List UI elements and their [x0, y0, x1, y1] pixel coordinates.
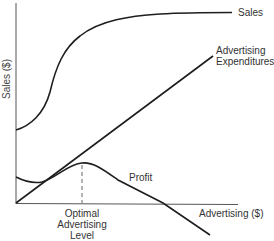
advertising-expenditures-label-line2: Expenditures — [216, 56, 274, 67]
optimal-label-line2: Advertising — [52, 219, 112, 230]
profit-curve — [16, 163, 210, 235]
profit-label: Profit — [129, 172, 152, 183]
advertising-expenditures-label: Advertising Expenditures — [216, 45, 274, 67]
chart-canvas — [0, 0, 274, 241]
optimal-label-line3: Level — [52, 230, 112, 241]
x-axis — [16, 204, 238, 205]
sales-curve — [16, 13, 232, 131]
x-axis-label: Advertising ($) — [199, 208, 263, 219]
advertising-expenditures-label-line1: Advertising — [216, 45, 274, 56]
optimal-label-line1: Optimal — [52, 208, 112, 219]
y-axis-label: Sales ($) — [1, 59, 12, 99]
optimal-advertising-level-label: Optimal Advertising Level — [52, 208, 112, 241]
sales-label: Sales — [238, 7, 263, 18]
